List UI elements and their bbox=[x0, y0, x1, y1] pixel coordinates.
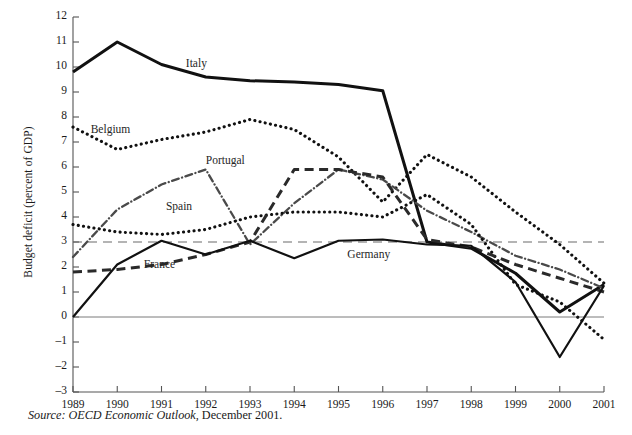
y-tick-label: 1 bbox=[45, 284, 67, 296]
y-tick-label: 9 bbox=[45, 84, 67, 96]
series-label-spain: Spain bbox=[166, 200, 192, 212]
x-tick-label: 2001 bbox=[582, 398, 626, 410]
y-tick-label: 7 bbox=[45, 134, 67, 146]
y-tick-label: 6 bbox=[45, 159, 67, 171]
y-tick-label: 10 bbox=[45, 59, 67, 71]
source-note-rest: December 2001. bbox=[199, 408, 283, 422]
y-tick-label: 12 bbox=[45, 9, 67, 21]
series-label-portugal: Portugal bbox=[206, 154, 245, 166]
y-tick-label: 4 bbox=[45, 209, 67, 221]
series-label-italy: Italy bbox=[186, 57, 207, 69]
y-tick-label: 0 bbox=[45, 309, 67, 321]
series-label-germany: Germany bbox=[347, 248, 390, 260]
axes bbox=[73, 17, 604, 392]
x-tick-label: 1995 bbox=[317, 398, 361, 410]
figure-container: Budget deficit (percent of GDP) 12111098… bbox=[0, 0, 632, 435]
y-tick-label: 3 bbox=[45, 234, 67, 246]
y-tick-label: 2 bbox=[45, 259, 67, 271]
series-label-france: France bbox=[144, 258, 175, 270]
y-axis-title: Budget deficit (percent of GDP) bbox=[22, 0, 34, 112]
y-tick-label: 11 bbox=[45, 34, 67, 46]
source-note: Source: OECD Economic Outlook, December … bbox=[28, 408, 282, 423]
x-tick-label: 2000 bbox=[538, 398, 582, 410]
series-line-portugal bbox=[73, 170, 604, 289]
y-tick-label: –1 bbox=[45, 334, 67, 346]
x-tick-label: 1999 bbox=[494, 398, 538, 410]
y-axis-title-text: Budget deficit (percent of GDP) bbox=[22, 112, 34, 292]
x-tick-label: 1998 bbox=[449, 398, 493, 410]
source-note-italic: Source: OECD Economic Outlook, bbox=[28, 408, 199, 422]
x-tick-label: 1996 bbox=[361, 398, 405, 410]
y-tick-label: –3 bbox=[45, 384, 67, 396]
y-tick-label: 5 bbox=[45, 184, 67, 196]
series-line-france bbox=[73, 170, 604, 293]
series-label-belgium: Belgium bbox=[91, 123, 131, 135]
x-tick-label: 1997 bbox=[405, 398, 449, 410]
data-series bbox=[73, 42, 604, 357]
y-tick-label: –2 bbox=[45, 359, 67, 371]
y-tick-label: 8 bbox=[45, 109, 67, 121]
line-chart-plot bbox=[0, 0, 632, 435]
series-line-italy bbox=[73, 42, 604, 312]
